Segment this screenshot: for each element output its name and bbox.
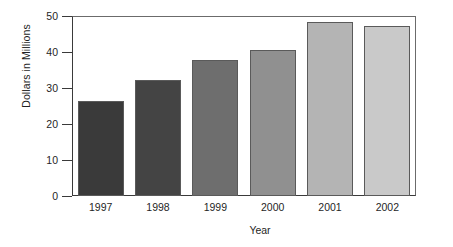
x-tick-label-2001: 2001 [300,202,360,213]
bar-1998 [135,80,181,196]
bar-1999 [192,60,238,196]
x-tick-label-2000: 2000 [243,202,303,213]
bar-chart: Dollars in Millions 01020304050 19971998… [0,0,453,247]
y-tick-mark [62,124,72,125]
bar-1997 [78,101,124,196]
y-tick-mark [62,160,72,161]
y-tick-label: 50 [18,11,58,22]
y-tick-label: 40 [18,47,58,58]
y-tick-label: 0 [18,191,58,202]
y-tick-mark [62,88,72,89]
bar-2001 [307,22,353,196]
x-axis-title: Year [70,224,450,236]
x-tick-label-2002: 2002 [357,202,417,213]
x-tick-label-1997: 1997 [71,202,131,213]
y-tick-label: 30 [18,83,58,94]
bar-2000 [250,50,296,196]
y-tick-label: 20 [18,119,58,130]
bar-2002 [364,26,410,196]
y-tick-label: 10 [18,155,58,166]
y-tick-mark [62,16,72,17]
y-tick-mark [62,196,72,197]
x-tick-label-1998: 1998 [128,202,188,213]
y-tick-mark [62,52,72,53]
x-tick-label-1999: 1999 [185,202,245,213]
